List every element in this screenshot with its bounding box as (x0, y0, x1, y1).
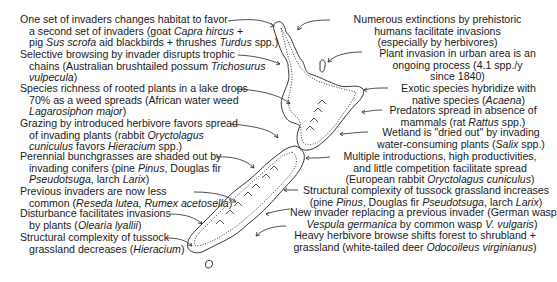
label-urban-invasion: Plant invasion in urban area is an ongoi… (360, 48, 555, 83)
label-disturbance: Disturbance facilitates invasions by pla… (20, 208, 171, 231)
label-habitat-change: One set of invaders changes habitat to f… (20, 14, 278, 49)
label-line: Grazing by introduced herbivore favors s… (20, 118, 238, 130)
label-herbivore-browse: Heavy herbivore browse shifts forest to … (290, 230, 540, 253)
label-line: grassland (white-tailed deer Odocoileus … (290, 242, 540, 254)
label-predators: Predators spread in absence of mammals (… (378, 105, 548, 128)
label-multiple-introductions: Multiple introductions, high productivit… (330, 151, 550, 186)
label-line: Plant invasion in urban area is an (360, 48, 555, 60)
label-line: Species richness of rooted plants in a l… (20, 83, 248, 95)
label-line: water-consuming plants (Salix spp.) (366, 139, 556, 151)
label-extinctions: Numerous extinctions by prehistoric huma… (330, 14, 545, 49)
label-line: Predators spread in absence of (378, 105, 548, 117)
label-lake-richness: Species richness of rooted plants in a l… (20, 83, 248, 118)
label-hybridize: Exotic species hybridize with native spe… (386, 83, 551, 106)
label-line: Exotic species hybridize with (386, 83, 551, 95)
label-wetland: Wetland is "dried out" by invading water… (366, 127, 556, 150)
label-line: One set of invaders changes habitat to f… (20, 14, 278, 26)
label-bunchgrasses: Perennial bunchgrasses are shaded out by… (20, 151, 221, 186)
label-new-invader: New invader replacing a previous invader… (290, 207, 554, 230)
stewart-island (205, 260, 212, 268)
label-line: Numerous extinctions by prehistoric (330, 14, 545, 26)
label-tussock-decreases: Structural complexity of tussock grassla… (20, 232, 184, 255)
label-tussock-increases: Structural complexity of tussock grassla… (296, 185, 556, 208)
label-line: Multiple introductions, high productivit… (330, 151, 550, 163)
label-selective-browsing: Selective browsing by invader disrupts t… (20, 49, 266, 84)
label-line: Wetland is "dried out" by invading (366, 127, 556, 139)
label-previous-invaders: Previous invaders are now less common (R… (20, 186, 232, 209)
label-line: grassland decreases (Hieracium) (20, 244, 184, 256)
label-grazing: Grazing by introduced herbivore favors s… (20, 118, 238, 153)
label-line: Perennial bunchgrasses are shaded out by (20, 151, 221, 163)
label-line: by plants (Olearia lyallii) (20, 220, 171, 232)
